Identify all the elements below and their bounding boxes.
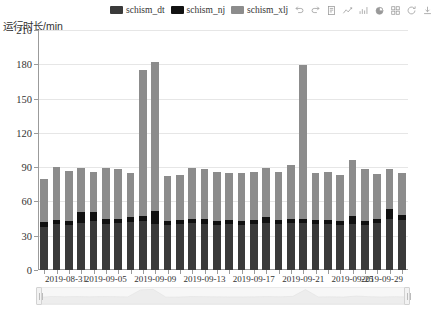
bar-stack[interactable] — [398, 30, 406, 270]
datazoom-handle-right[interactable] — [404, 287, 410, 305]
bar-segment-schism_nj — [213, 221, 221, 226]
chart-header: schism_dtschism_njschism_xlj — [0, 4, 436, 18]
bar-stack[interactable] — [312, 30, 320, 270]
bar-segment-schism_nj — [287, 219, 295, 224]
restore-icon[interactable] — [406, 5, 417, 16]
bar-stack[interactable] — [77, 30, 85, 270]
bar-segment-schism_xlj — [188, 168, 196, 218]
legend-item-schism_nj[interactable]: schism_nj — [171, 4, 226, 16]
bar-segment-schism_dt — [213, 225, 221, 270]
bar-segment-schism_nj — [151, 211, 159, 225]
bar-stack[interactable] — [386, 30, 394, 270]
bar-segment-schism_xlj — [386, 169, 394, 209]
bar-chart-icon[interactable] — [358, 5, 369, 16]
bar-stack[interactable] — [114, 30, 122, 270]
bar-segment-schism_nj — [324, 220, 332, 225]
bar-stack[interactable] — [238, 30, 246, 270]
y-axis-label: 30 — [22, 230, 33, 241]
bar-segment-schism_nj — [65, 221, 73, 226]
y-axis-label: 180 — [16, 59, 32, 70]
bar-stack[interactable] — [139, 30, 147, 270]
download-icon[interactable] — [422, 5, 433, 16]
bar-segment-schism_dt — [262, 223, 270, 270]
bar-segment-schism_xlj — [90, 172, 98, 212]
x-axis-tick-mark — [131, 270, 132, 274]
bar-segment-schism_xlj — [164, 176, 172, 221]
bar-segment-schism_dt — [77, 223, 85, 270]
bar-stack[interactable] — [164, 30, 172, 270]
bar-stack[interactable] — [127, 30, 135, 270]
bar-stack[interactable] — [65, 30, 73, 270]
bar-segment-schism_xlj — [225, 173, 233, 220]
bar-stack[interactable] — [151, 30, 159, 270]
data-view-icon[interactable] — [326, 5, 337, 16]
bar-stack[interactable] — [349, 30, 357, 270]
x-axis-tick-mark — [328, 270, 329, 274]
bar-segment-schism_xlj — [287, 165, 295, 219]
bar-stack[interactable] — [262, 30, 270, 270]
bar-segment-schism_xlj — [201, 169, 209, 218]
x-axis-tick-mark — [279, 270, 280, 274]
bar-stack[interactable] — [213, 30, 221, 270]
pie-chart-icon[interactable] — [374, 5, 385, 16]
bar-stack[interactable] — [40, 30, 48, 270]
bar-segment-schism_dt — [398, 220, 406, 270]
y-axis-label: 60 — [22, 196, 33, 207]
line-chart-icon[interactable] — [342, 5, 353, 16]
bar-segment-schism_dt — [287, 223, 295, 270]
bar-segment-schism_nj — [250, 220, 258, 225]
bar-segment-schism_nj — [188, 219, 196, 224]
bar-stack[interactable] — [102, 30, 110, 270]
bar-stack[interactable] — [250, 30, 258, 270]
legend-marker-icon — [231, 6, 244, 14]
bar-segment-schism_nj — [77, 212, 85, 223]
bar-segment-schism_xlj — [65, 171, 73, 221]
datazoom-slider[interactable] — [38, 287, 408, 305]
bar-stack[interactable] — [275, 30, 283, 270]
bar-stack[interactable] — [90, 30, 98, 270]
bar-stack[interactable] — [324, 30, 332, 270]
bar-segment-schism_xlj — [373, 174, 381, 219]
bar-segment-schism_dt — [250, 224, 258, 270]
bar-segment-schism_xlj — [398, 173, 406, 215]
bar-segment-schism_nj — [398, 215, 406, 220]
bar-stack[interactable] — [53, 30, 61, 270]
tiled-chart-icon[interactable] — [390, 5, 401, 16]
bar-segment-schism_xlj — [176, 175, 184, 220]
legend-item-schism_xlj[interactable]: schism_xlj — [231, 4, 288, 16]
bar-segment-schism_dt — [225, 224, 233, 270]
bar-segment-schism_nj — [238, 221, 246, 226]
bar-segment-schism_xlj — [53, 167, 61, 220]
bar-segment-schism_dt — [90, 221, 98, 270]
bar-stack[interactable] — [373, 30, 381, 270]
datazoom-handle-left[interactable] — [36, 287, 42, 305]
bar-segment-schism_dt — [275, 224, 283, 270]
bar-segment-schism_dt — [324, 224, 332, 270]
bar-stack[interactable] — [299, 30, 307, 270]
y-axis-label: 150 — [16, 93, 32, 104]
bar-segment-schism_xlj — [151, 62, 159, 211]
x-axis-label: 2019-09-09 — [134, 274, 176, 284]
bar-segment-schism_dt — [164, 225, 172, 270]
bar-segment-schism_xlj — [114, 169, 122, 218]
bar-stack[interactable] — [188, 30, 196, 270]
bar-segment-schism_nj — [275, 220, 283, 225]
bar-stack[interactable] — [287, 30, 295, 270]
bar-segment-schism_dt — [336, 225, 344, 270]
bar-stack[interactable] — [336, 30, 344, 270]
bar-stack[interactable] — [176, 30, 184, 270]
redo-icon[interactable] — [310, 5, 321, 16]
undo-icon[interactable] — [294, 5, 305, 16]
legend-item-label: schism_dt — [126, 4, 165, 16]
legend-item-schism_dt[interactable]: schism_dt — [110, 4, 165, 16]
bar-segment-schism_dt — [373, 223, 381, 270]
bar-segment-schism_nj — [53, 220, 61, 225]
plot-area: 0306090120150180210 2019-08-312019-09-05… — [38, 30, 408, 270]
bar-segment-schism_dt — [361, 225, 369, 270]
bar-stack[interactable] — [201, 30, 209, 270]
legend-marker-icon — [171, 6, 184, 14]
bar-segment-schism_xlj — [299, 65, 307, 218]
bar-segment-schism_nj — [102, 219, 110, 225]
bar-stack[interactable] — [361, 30, 369, 270]
bar-stack[interactable] — [225, 30, 233, 270]
